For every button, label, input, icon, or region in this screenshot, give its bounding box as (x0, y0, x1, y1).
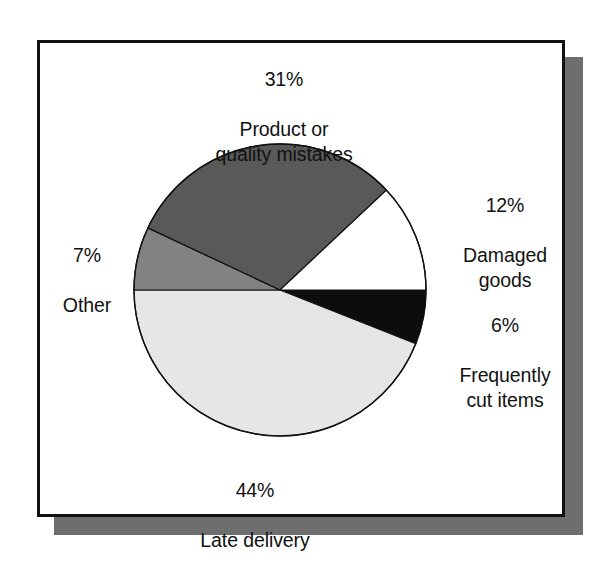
figure-root: 31% Product or quality mistakes 12% Dama… (0, 0, 612, 565)
chart-panel (37, 40, 565, 517)
